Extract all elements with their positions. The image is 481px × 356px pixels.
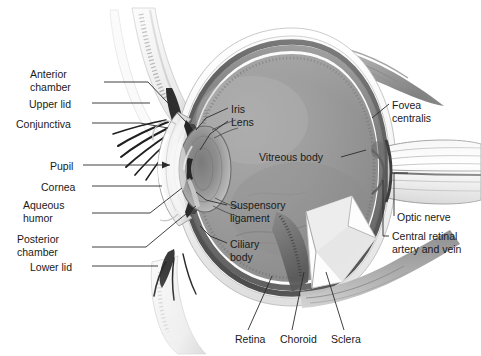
label-optic-nerve: Optic nerve [397,211,451,224]
label-ciliary-body: Ciliary body [230,238,259,263]
eye-illustration [0,0,481,356]
label-aqueous-humor: Aqueous humor [23,199,64,224]
label-sclera: Sclera [331,333,361,346]
label-lens: Lens [231,116,254,129]
label-suspensory-ligament: Suspensory ligament [230,199,285,224]
label-retina: Retina [235,333,265,346]
label-cornea: Cornea [41,181,75,194]
label-conjunctiva: Conjunctiva [16,118,71,131]
label-iris: Iris [231,103,245,116]
label-choroid: Choroid [280,333,317,346]
label-lower-lid: Lower lid [30,261,72,274]
label-posterior-chamber: Posterior chamber [17,233,59,258]
label-pupil: Pupil [50,160,73,173]
eye-anatomy-figure: Anterior chamber Upper lid Conjunctiva P… [0,0,481,356]
label-central-retinal-artery-and-vein: Central retinal artery and vein [392,230,461,255]
label-vitreous-body: Vitreous body [259,151,323,164]
label-fovea-centralis: Fovea centralis [392,99,431,124]
label-anterior-chamber: Anterior chamber [30,68,71,93]
label-upper-lid: Upper lid [29,98,71,111]
